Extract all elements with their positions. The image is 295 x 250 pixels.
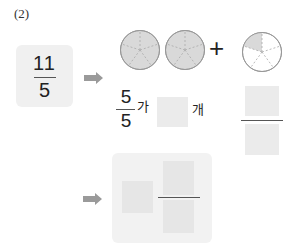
unit-denominator: 5 (117, 110, 135, 132)
answer-blank-numerator[interactable] (245, 86, 279, 116)
plus-sign: + (209, 33, 224, 64)
circle-diagrams (115, 25, 295, 80)
problem-label: (2) (14, 6, 29, 22)
fraction-bar (34, 77, 56, 78)
unit-numerator: 5 (117, 86, 135, 108)
given-fraction-box: 11 5 (16, 45, 73, 107)
fraction-circle (121, 31, 160, 70)
given-numerator: 11 (16, 52, 73, 75)
fraction-circle (166, 31, 205, 70)
answer-blank-count[interactable] (157, 97, 188, 127)
given-denominator: 5 (16, 79, 73, 102)
answer-blank-mixed-numerator[interactable] (163, 161, 194, 195)
fraction-bar (241, 120, 283, 121)
fraction-circle (243, 33, 282, 72)
right-arrow-icon (84, 72, 103, 84)
counter-text: 개 (192, 99, 204, 118)
answer-blank-denominator[interactable] (245, 124, 279, 155)
answer-blank-whole[interactable] (122, 181, 153, 213)
mixed-number-answer-panel (112, 153, 212, 243)
fraction-bar (158, 197, 200, 198)
right-arrow-icon (83, 193, 102, 205)
answer-blank-mixed-denominator[interactable] (163, 200, 194, 233)
particle-text: 가 (137, 96, 149, 115)
